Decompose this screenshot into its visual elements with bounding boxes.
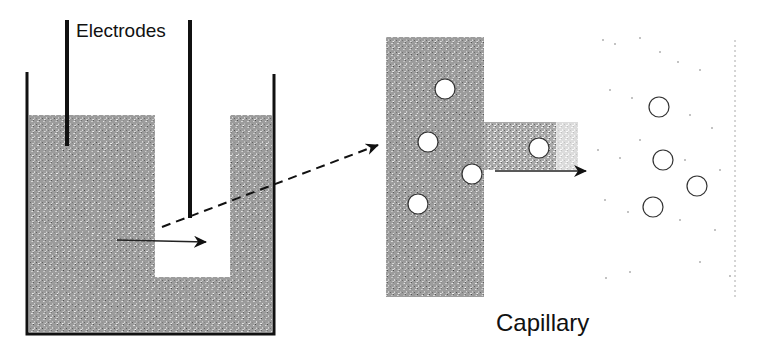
electrophoresis-diagram — [0, 0, 763, 362]
particles-free — [643, 97, 707, 217]
capillary-label: Capillary — [496, 309, 589, 337]
electrodes-label: Electrodes — [76, 20, 166, 42]
beaker-liquid — [29, 115, 272, 332]
